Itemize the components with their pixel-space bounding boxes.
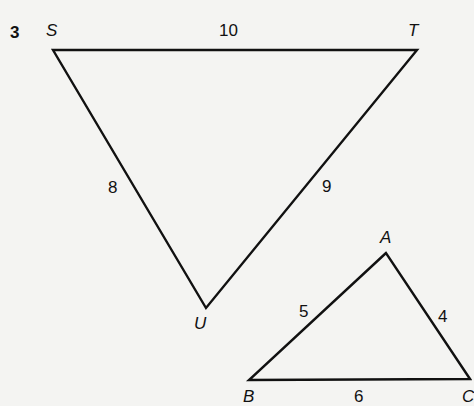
side-label-st: 10: [219, 22, 238, 39]
question-number: 3: [10, 24, 19, 41]
side-label-tu: 9: [322, 178, 331, 195]
vertex-label-a: A: [380, 229, 391, 246]
vertex-label-u: U: [194, 315, 206, 332]
vertex-label-c: C: [462, 388, 474, 405]
side-label-bc: 6: [354, 388, 363, 405]
triangle-abc: [249, 253, 470, 380]
side-label-ac: 4: [438, 308, 447, 325]
vertex-label-t: T: [408, 22, 418, 39]
vertex-label-s: S: [46, 22, 57, 39]
side-label-ab: 5: [299, 303, 308, 320]
side-label-su: 8: [108, 179, 117, 196]
vertex-label-b: B: [243, 388, 254, 405]
